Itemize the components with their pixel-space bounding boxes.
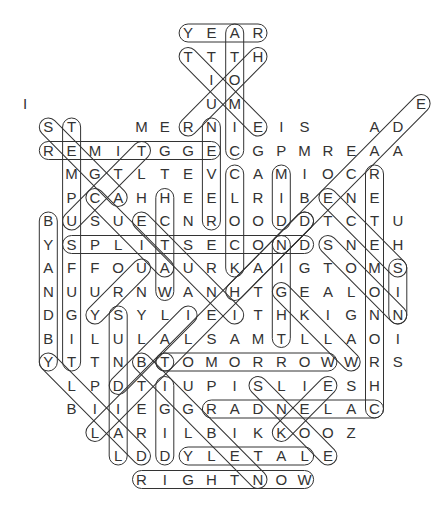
grid-letter[interactable]: E <box>155 117 175 137</box>
grid-letter[interactable]: O <box>225 352 245 372</box>
grid-letter[interactable]: E <box>318 446 338 466</box>
grid-letter[interactable]: N <box>388 305 408 325</box>
grid-letter[interactable]: U <box>62 211 82 231</box>
grid-letter[interactable]: O <box>318 423 338 443</box>
grid-letter[interactable]: H <box>155 188 175 208</box>
grid-letter[interactable]: H <box>225 282 245 302</box>
grid-letter[interactable]: P <box>85 235 105 255</box>
grid-letter[interactable]: I <box>15 94 35 114</box>
grid-letter[interactable]: L <box>178 329 198 349</box>
grid-letter[interactable]: A <box>155 258 175 278</box>
grid-letter[interactable]: O <box>248 235 268 255</box>
grid-letter[interactable]: O <box>271 470 291 490</box>
grid-letter[interactable]: E <box>201 141 221 161</box>
grid-letter[interactable]: R <box>248 352 268 372</box>
grid-letter[interactable]: W <box>318 352 338 372</box>
grid-letter[interactable]: S <box>62 235 82 255</box>
grid-letter[interactable]: S <box>341 376 361 396</box>
grid-letter[interactable]: O <box>248 211 268 231</box>
grid-letter[interactable]: E <box>201 235 221 255</box>
grid-letter[interactable]: L <box>108 446 128 466</box>
grid-letter[interactable]: N <box>365 305 385 325</box>
grid-letter[interactable]: D <box>295 211 315 231</box>
grid-letter[interactable]: G <box>62 305 82 325</box>
grid-letter[interactable]: Y <box>38 352 58 372</box>
grid-letter[interactable]: R <box>201 399 221 419</box>
grid-letter[interactable]: A <box>271 446 291 466</box>
grid-letter[interactable]: R <box>132 470 152 490</box>
grid-letter[interactable]: E <box>365 235 385 255</box>
grid-letter[interactable]: R <box>365 164 385 184</box>
grid-letter[interactable]: G <box>178 470 198 490</box>
grid-letter[interactable]: D <box>388 117 408 137</box>
grid-letter[interactable]: N <box>271 399 291 419</box>
grid-letter[interactable]: B <box>38 329 58 349</box>
grid-letter[interactable]: E <box>295 282 315 302</box>
grid-letter[interactable]: T <box>155 235 175 255</box>
grid-letter[interactable]: E <box>365 188 385 208</box>
grid-letter[interactable]: I <box>271 258 291 278</box>
grid-letter[interactable]: M <box>248 329 268 349</box>
grid-letter[interactable]: L <box>201 446 221 466</box>
grid-letter[interactable]: A <box>108 188 128 208</box>
grid-letter[interactable]: L <box>85 423 105 443</box>
grid-letter[interactable]: D <box>38 305 58 325</box>
grid-letter[interactable]: V <box>201 164 221 184</box>
grid-letter[interactable]: T <box>248 305 268 325</box>
grid-letter[interactable]: A <box>155 329 175 349</box>
grid-letter[interactable]: B <box>62 399 82 419</box>
grid-letter[interactable]: U <box>108 211 128 231</box>
grid-letter[interactable]: E <box>318 188 338 208</box>
grid-letter[interactable]: I <box>271 117 291 137</box>
grid-letter[interactable]: R <box>38 141 58 161</box>
grid-letter[interactable]: R <box>318 141 338 161</box>
grid-letter[interactable]: O <box>225 70 245 90</box>
grid-letter[interactable]: D <box>132 446 152 466</box>
grid-letter[interactable]: T <box>62 352 82 372</box>
grid-letter[interactable]: E <box>62 141 82 161</box>
grid-letter[interactable]: A <box>225 329 245 349</box>
grid-letter[interactable]: O <box>225 211 245 231</box>
grid-letter[interactable]: T <box>318 211 338 231</box>
grid-letter[interactable]: T <box>108 164 128 184</box>
grid-letter[interactable]: Y <box>132 305 152 325</box>
grid-letter[interactable]: U <box>62 282 82 302</box>
grid-letter[interactable]: S <box>178 235 198 255</box>
grid-letter[interactable]: I <box>225 117 245 137</box>
grid-letter[interactable]: O <box>318 164 338 184</box>
grid-letter[interactable]: A <box>365 117 385 137</box>
grid-letter[interactable]: P <box>85 376 105 396</box>
grid-letter[interactable]: N <box>38 282 58 302</box>
grid-letter[interactable]: A <box>248 164 268 184</box>
grid-letter[interactable]: O <box>341 258 361 278</box>
grid-letter[interactable]: F <box>62 258 82 278</box>
grid-letter[interactable]: B <box>132 352 152 372</box>
grid-letter[interactable]: T <box>155 164 175 184</box>
grid-letter[interactable]: I <box>318 305 338 325</box>
grid-letter[interactable]: S <box>85 211 105 231</box>
grid-letter[interactable]: N <box>341 188 361 208</box>
grid-letter[interactable]: U <box>388 211 408 231</box>
grid-letter[interactable]: R <box>248 23 268 43</box>
grid-letter[interactable]: E <box>341 141 361 161</box>
grid-letter[interactable]: T <box>271 329 291 349</box>
grid-letter[interactable]: T <box>178 47 198 67</box>
grid-letter[interactable]: Y <box>85 305 105 325</box>
grid-letter[interactable]: I <box>108 399 128 419</box>
grid-letter[interactable]: L <box>295 446 315 466</box>
grid-letter[interactable]: H <box>132 188 152 208</box>
grid-letter[interactable]: R <box>201 258 221 278</box>
grid-letter[interactable]: A <box>225 399 245 419</box>
grid-letter[interactable]: D <box>248 399 268 419</box>
grid-letter[interactable]: G <box>295 258 315 278</box>
grid-letter[interactable]: C <box>155 211 175 231</box>
grid-letter[interactable]: E <box>201 23 221 43</box>
grid-letter[interactable]: S <box>108 305 128 325</box>
grid-letter[interactable]: P <box>62 188 82 208</box>
grid-letter[interactable]: I <box>108 141 128 161</box>
grid-letter[interactable]: I <box>201 70 221 90</box>
grid-letter[interactable]: Y <box>178 23 198 43</box>
grid-letter[interactable]: A <box>341 399 361 419</box>
grid-letter[interactable]: O <box>365 282 385 302</box>
grid-letter[interactable]: U <box>85 282 105 302</box>
